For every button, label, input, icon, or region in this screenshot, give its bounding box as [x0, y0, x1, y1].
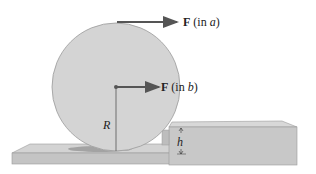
- radius-label: R: [102, 118, 111, 132]
- force-label-a: F (in a): [183, 15, 220, 29]
- wheel-step-diagram: R F (in b) F (in a) h: [0, 0, 316, 174]
- height-label: h: [177, 135, 183, 149]
- force-label-b: F (in b): [161, 80, 198, 94]
